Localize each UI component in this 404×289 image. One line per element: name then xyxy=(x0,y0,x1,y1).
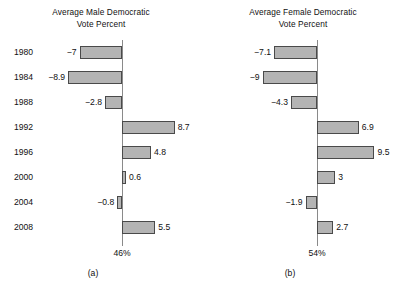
year-label-1988: 1988 xyxy=(14,96,48,109)
year-label-2008: 2008 xyxy=(14,221,48,234)
year-label-1996: 1996 xyxy=(14,146,48,159)
bar-b-1992 xyxy=(317,121,359,134)
bar-b-2000 xyxy=(317,171,335,184)
value-label-a-2004: −0.8 xyxy=(97,196,114,209)
bar-row: 20000.6 xyxy=(0,171,202,196)
value-label-b-2008: 2.7 xyxy=(336,221,348,234)
panel-b-caption: (b) xyxy=(189,268,391,278)
value-label-a-1984: −8.9 xyxy=(48,71,65,84)
bar-row: 19964.8 xyxy=(0,146,202,171)
year-label-1984: 1984 xyxy=(14,71,48,84)
bar-row: 2.7 xyxy=(202,221,404,246)
bar-a-1988 xyxy=(105,96,122,109)
value-label-b-2004: −1.9 xyxy=(286,196,303,209)
year-label-2004: 2004 xyxy=(14,196,48,209)
bar-row: 9.5 xyxy=(202,146,404,171)
value-label-a-1992: 8.7 xyxy=(178,121,190,134)
value-label-a-1996: 4.8 xyxy=(154,146,166,159)
bar-row: 6.9 xyxy=(202,121,404,146)
bar-b-1984 xyxy=(263,71,317,84)
bar-row: −7.1 xyxy=(202,46,404,71)
bar-row: 1984−8.9 xyxy=(0,71,202,96)
value-label-b-1996: 9.5 xyxy=(377,146,389,159)
bar-row: 19928.7 xyxy=(0,121,202,146)
panel-b-plot-area: −7.1−9−4.36.99.53−1.92.7 54% xyxy=(202,0,404,289)
bar-row: −1.9 xyxy=(202,196,404,221)
bar-a-1996 xyxy=(122,146,151,159)
value-label-b-1980: −7.1 xyxy=(254,46,271,59)
year-label-2000: 2000 xyxy=(14,171,48,184)
bar-a-2000 xyxy=(122,171,126,184)
bar-b-1996 xyxy=(317,146,374,159)
year-label-1992: 1992 xyxy=(14,121,48,134)
value-label-a-2008: 5.5 xyxy=(158,221,170,234)
value-label-b-1988: −4.3 xyxy=(271,96,288,109)
bar-row: 2004−0.8 xyxy=(0,196,202,221)
panel-b-baseline-label: 54% xyxy=(287,248,347,259)
bar-a-2008 xyxy=(122,221,155,234)
bar-b-1988 xyxy=(291,96,317,109)
value-label-a-2000: 0.6 xyxy=(129,171,141,184)
panel-a-baseline-label: 46% xyxy=(92,248,152,259)
bar-b-1980 xyxy=(274,46,317,59)
bar-row: 20085.5 xyxy=(0,221,202,246)
year-label-1980: 1980 xyxy=(14,46,48,59)
value-label-a-1988: −2.8 xyxy=(85,96,102,109)
bar-a-2004 xyxy=(117,196,122,209)
bar-row: 1980−7 xyxy=(0,46,202,71)
panel-a: Average Male Democratic Vote Percent 198… xyxy=(0,0,202,289)
value-label-b-1992: 6.9 xyxy=(362,121,374,134)
value-label-b-2000: 3 xyxy=(338,171,343,184)
panel-a-caption: (a) xyxy=(0,268,194,278)
panel-b: Average Female Democratic Vote Percent −… xyxy=(202,0,404,289)
bar-row: 1988−2.8 xyxy=(0,96,202,121)
bar-a-1992 xyxy=(122,121,175,134)
bar-row: −9 xyxy=(202,71,404,96)
bar-b-2008 xyxy=(317,221,333,234)
value-label-b-1984: −9 xyxy=(250,71,260,84)
bar-row: 3 xyxy=(202,171,404,196)
bar-row: −4.3 xyxy=(202,96,404,121)
value-label-a-1980: −7 xyxy=(67,46,77,59)
bar-a-1980 xyxy=(80,46,122,59)
figure-two-panel-bar-charts: Average Male Democratic Vote Percent 198… xyxy=(0,0,404,289)
panel-a-plot-area: 1980−71984−8.91988−2.819928.719964.82000… xyxy=(0,0,202,289)
bar-a-1984 xyxy=(68,71,122,84)
bar-b-2004 xyxy=(306,196,317,209)
